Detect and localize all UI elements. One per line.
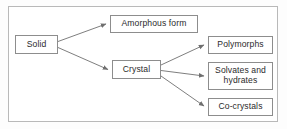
node-solid[interactable]: Solid <box>15 35 58 54</box>
node-co-crystals[interactable]: Co-crystals <box>208 98 273 116</box>
edge-crystal-to-cocrystals <box>161 76 204 106</box>
edge-solid-to-crystal <box>58 48 108 70</box>
node-amorphous-form[interactable]: Amorphous form <box>110 15 198 33</box>
edge-solid-to-amorphous <box>58 24 106 42</box>
node-polymorphs[interactable]: Polymorphs <box>208 36 273 54</box>
edge-crystal-to-solvates <box>161 71 204 77</box>
node-solvates-and-hydrates[interactable]: Solvates and hydrates <box>208 62 273 90</box>
diagram-canvas: Solid Amorphous form Crystal Polymorphs … <box>0 0 287 129</box>
node-crystal[interactable]: Crystal <box>112 60 161 79</box>
edge-crystal-to-polymorphs <box>161 45 204 65</box>
